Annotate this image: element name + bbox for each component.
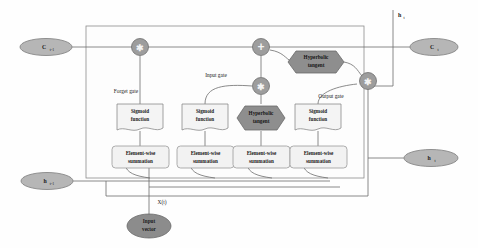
input-signal-label: X(t)	[158, 199, 167, 206]
activation-sigmoid-forget-line1: Sigmoid	[131, 108, 149, 114]
ellipse-shape[interactable]	[404, 150, 458, 167]
operator-mult-forget-glyph: ✱	[136, 43, 144, 53]
activation-sigmoid-forget-line2: function	[131, 116, 150, 122]
node-previous-hidden-state[interactable]: h t-1	[21, 173, 73, 190]
input-vector-line1: Input	[143, 218, 156, 224]
activation-tanh-output[interactable]: Hyperbolic tangent	[288, 51, 344, 73]
label-forget-gate: Forget gate	[114, 88, 139, 94]
label-hidden-top: h t	[398, 12, 405, 20]
previous-cell-state-sub: t-1	[50, 47, 54, 52]
node-input-vector[interactable]: Input vector	[127, 214, 171, 238]
activation-sigmoid-input-line1: Sigmoid	[196, 108, 214, 114]
activation-tanh-candidate-line1: Hyperbolic	[249, 110, 274, 116]
summation-forget-line2: summation	[128, 158, 153, 164]
operator-mult-input-glyph: ✱	[257, 82, 265, 92]
activation-sigmoid-output-line2: function	[309, 116, 328, 122]
operator-add-cell-glyph: +	[257, 40, 264, 54]
summation-input-line1: Element-wise	[191, 150, 221, 156]
summation-output-line2: summation	[306, 158, 331, 164]
hidden-top-label: h	[398, 12, 402, 18]
ellipse-shape[interactable]	[21, 173, 73, 190]
previous-cell-state-label: C	[42, 44, 46, 50]
lstm-diagram-canvas: ✱ + ✱ ✱ Forget gate Input gate Output ga…	[0, 0, 478, 248]
next-cell-state-label: C	[430, 44, 434, 50]
node-next-cell-state[interactable]: C t	[410, 39, 458, 56]
node-previous-cell-state[interactable]: C t-1	[20, 39, 72, 56]
previous-hidden-state-sub: t-1	[50, 181, 54, 186]
label-output-gate: Output gate	[318, 93, 344, 99]
activation-sigmoid-forget[interactable]: Sigmoid function	[117, 104, 163, 130]
activation-tanh-output-line2: tangent	[308, 62, 325, 68]
activation-tanh-output-line1: Hyperbolic	[304, 54, 329, 60]
summation-forget-line1: Element-wise	[126, 150, 156, 156]
hidden-top-sub: t	[403, 15, 405, 20]
summation-output-line1: Element-wise	[304, 150, 334, 156]
summation-input-line2: summation	[193, 158, 218, 164]
summation-output[interactable]: Element-wise summation	[290, 146, 347, 168]
summation-candidate[interactable]: Element-wise summation	[233, 146, 290, 168]
operator-mult-forget[interactable]: ✱	[132, 39, 149, 56]
activation-tanh-candidate-line2: tangent	[253, 118, 270, 124]
node-next-hidden-state[interactable]: h t	[404, 150, 458, 167]
activation-sigmoid-output[interactable]: Sigmoid function	[295, 104, 341, 130]
wire-hidden-out	[368, 86, 404, 158]
lstm-diagram-svg: ✱ + ✱ ✱ Forget gate Input gate Output ga…	[0, 0, 478, 248]
operator-mult-input[interactable]: ✱	[253, 78, 270, 95]
input-vector-line2: vector	[142, 226, 157, 232]
operator-mult-output-glyph: ✱	[364, 77, 372, 87]
summation-input[interactable]: Element-wise summation	[177, 146, 234, 168]
summation-forget[interactable]: Element-wise summation	[112, 146, 169, 168]
activation-sigmoid-input-line2: function	[196, 116, 215, 122]
summation-candidate-line2: summation	[249, 158, 274, 164]
summation-candidate-line1: Element-wise	[247, 150, 277, 156]
operator-add-cell[interactable]: +	[253, 39, 270, 56]
operator-mult-output[interactable]: ✱	[360, 73, 377, 90]
activation-sigmoid-input[interactable]: Sigmoid function	[182, 104, 228, 130]
label-input-gate: Input gate	[205, 72, 227, 78]
activation-tanh-candidate[interactable]: Hyperbolic tangent	[237, 106, 285, 130]
activation-sigmoid-output-line1: Sigmoid	[309, 108, 327, 114]
